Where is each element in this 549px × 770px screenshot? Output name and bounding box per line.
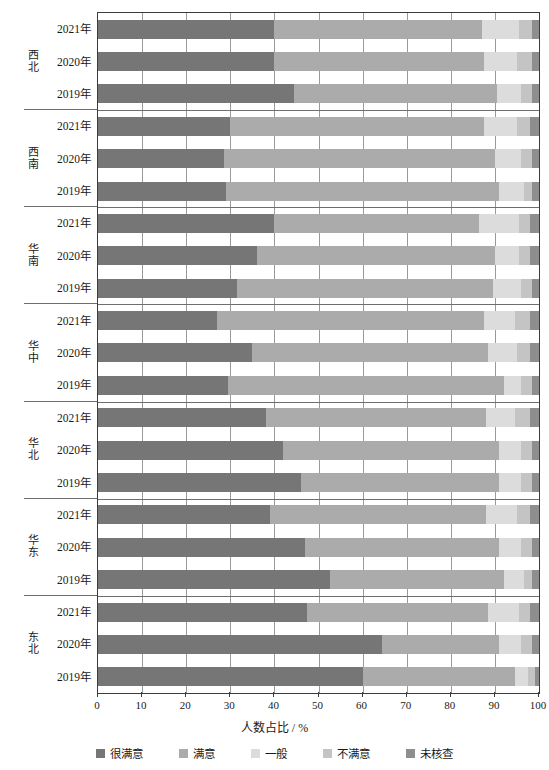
bar-segment-未核查[interactable]: [532, 20, 539, 39]
bar-segment-一般[interactable]: [484, 311, 515, 330]
stacked-bar[interactable]: [98, 149, 539, 168]
bar-segment-很满意[interactable]: [98, 182, 226, 201]
bar-segment-未核查[interactable]: [532, 84, 539, 103]
bar-segment-满意[interactable]: [217, 311, 484, 330]
bar-segment-未核查[interactable]: [530, 408, 539, 427]
bar-segment-未核查[interactable]: [530, 311, 539, 330]
legend-item-很满意[interactable]: 很满意: [96, 745, 143, 761]
bar-segment-满意[interactable]: [307, 603, 488, 622]
bar-segment-很满意[interactable]: [98, 603, 307, 622]
bar-segment-不满意[interactable]: [521, 376, 532, 395]
stacked-bar[interactable]: [98, 117, 539, 136]
bar-segment-一般[interactable]: [499, 538, 521, 557]
bar-segment-未核查[interactable]: [530, 246, 539, 265]
bar-segment-一般[interactable]: [495, 149, 521, 168]
bar-segment-不满意[interactable]: [515, 311, 530, 330]
legend-item-未核查[interactable]: 未核查: [406, 745, 453, 761]
bar-segment-很满意[interactable]: [98, 149, 224, 168]
stacked-bar[interactable]: [98, 182, 539, 201]
stacked-bar[interactable]: [98, 84, 539, 103]
bar-segment-一般[interactable]: [499, 473, 521, 492]
bar-segment-不满意[interactable]: [521, 635, 532, 654]
bar-segment-很满意[interactable]: [98, 473, 301, 492]
bar-segment-很满意[interactable]: [98, 635, 382, 654]
bar-segment-很满意[interactable]: [98, 279, 237, 298]
stacked-bar[interactable]: [98, 343, 539, 362]
bar-segment-很满意[interactable]: [98, 441, 283, 460]
bar-segment-很满意[interactable]: [98, 20, 274, 39]
bar-segment-不满意[interactable]: [519, 214, 530, 233]
stacked-bar[interactable]: [98, 473, 539, 492]
bar-segment-未核查[interactable]: [532, 441, 539, 460]
stacked-bar[interactable]: [98, 667, 539, 686]
bar-segment-未核查[interactable]: [530, 603, 539, 622]
bar-segment-满意[interactable]: [252, 343, 488, 362]
stacked-bar[interactable]: [98, 408, 539, 427]
bar-segment-一般[interactable]: [497, 84, 521, 103]
bar-segment-未核查[interactable]: [532, 149, 539, 168]
bar-segment-不满意[interactable]: [517, 343, 530, 362]
legend-item-满意[interactable]: 满意: [179, 745, 215, 761]
bar-segment-不满意[interactable]: [519, 603, 530, 622]
legend-item-不满意[interactable]: 不满意: [323, 745, 370, 761]
bar-segment-不满意[interactable]: [519, 20, 532, 39]
stacked-bar[interactable]: [98, 376, 539, 395]
bar-segment-满意[interactable]: [283, 441, 499, 460]
bar-segment-很满意[interactable]: [98, 505, 270, 524]
bar-segment-一般[interactable]: [493, 279, 522, 298]
bar-segment-一般[interactable]: [499, 441, 521, 460]
bar-segment-一般[interactable]: [488, 343, 517, 362]
bar-segment-不满意[interactable]: [521, 441, 532, 460]
bar-segment-未核查[interactable]: [530, 505, 539, 524]
bar-segment-满意[interactable]: [266, 408, 487, 427]
bar-segment-一般[interactable]: [479, 214, 519, 233]
bar-segment-满意[interactable]: [294, 84, 497, 103]
bar-segment-满意[interactable]: [224, 149, 495, 168]
stacked-bar[interactable]: [98, 52, 539, 71]
bar-segment-一般[interactable]: [499, 635, 521, 654]
bar-segment-很满意[interactable]: [98, 408, 266, 427]
bar-segment-很满意[interactable]: [98, 52, 274, 71]
bar-segment-未核查[interactable]: [532, 279, 539, 298]
bar-segment-满意[interactable]: [363, 667, 515, 686]
bar-segment-未核查[interactable]: [530, 117, 539, 136]
bar-segment-一般[interactable]: [488, 603, 519, 622]
bar-segment-未核查[interactable]: [532, 570, 539, 589]
bar-segment-不满意[interactable]: [521, 149, 532, 168]
bar-segment-不满意[interactable]: [524, 182, 533, 201]
bar-segment-满意[interactable]: [257, 246, 495, 265]
stacked-bar[interactable]: [98, 20, 539, 39]
stacked-bar[interactable]: [98, 635, 539, 654]
bar-segment-满意[interactable]: [330, 570, 504, 589]
bar-segment-未核查[interactable]: [530, 343, 539, 362]
bar-segment-满意[interactable]: [305, 538, 499, 557]
bar-segment-未核查[interactable]: [535, 667, 539, 686]
bar-segment-未核查[interactable]: [532, 376, 539, 395]
bar-segment-一般[interactable]: [486, 408, 515, 427]
bar-segment-一般[interactable]: [484, 117, 517, 136]
bar-segment-满意[interactable]: [226, 182, 499, 201]
bar-segment-一般[interactable]: [482, 20, 519, 39]
bar-segment-很满意[interactable]: [98, 311, 217, 330]
bar-segment-一般[interactable]: [486, 505, 517, 524]
bar-segment-未核查[interactable]: [532, 182, 539, 201]
bar-segment-不满意[interactable]: [521, 473, 532, 492]
stacked-bar[interactable]: [98, 603, 539, 622]
bar-segment-很满意[interactable]: [98, 117, 230, 136]
bar-segment-不满意[interactable]: [517, 52, 532, 71]
bar-segment-未核查[interactable]: [532, 538, 539, 557]
bar-segment-很满意[interactable]: [98, 667, 363, 686]
bar-segment-满意[interactable]: [274, 214, 479, 233]
stacked-bar[interactable]: [98, 214, 539, 233]
legend-item-一般[interactable]: 一般: [251, 745, 287, 761]
stacked-bar[interactable]: [98, 311, 539, 330]
bar-segment-未核查[interactable]: [532, 52, 539, 71]
bar-segment-很满意[interactable]: [98, 538, 305, 557]
bar-segment-一般[interactable]: [484, 52, 517, 71]
bar-segment-不满意[interactable]: [517, 505, 530, 524]
bar-segment-满意[interactable]: [274, 20, 481, 39]
bar-segment-不满意[interactable]: [521, 538, 532, 557]
bar-segment-很满意[interactable]: [98, 376, 228, 395]
bar-segment-一般[interactable]: [504, 376, 522, 395]
bar-segment-很满意[interactable]: [98, 246, 257, 265]
